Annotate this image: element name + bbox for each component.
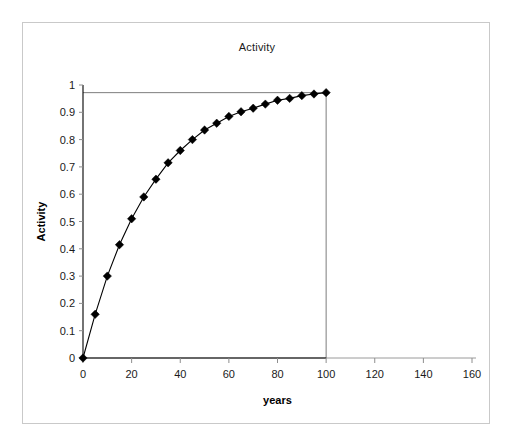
data-point-marker — [225, 112, 233, 120]
y-axis-tick-label: 0.5 — [60, 216, 75, 228]
activity-line-chart: 00.10.20.30.40.50.60.70.80.9102040608010… — [23, 23, 491, 425]
data-point-marker — [285, 94, 293, 102]
x-axis-tick-label: 80 — [271, 368, 283, 380]
y-axis-tick-label: 0.2 — [60, 297, 75, 309]
y-axis-tick-label: 0 — [69, 352, 75, 364]
data-point-marker — [249, 104, 257, 112]
x-axis-tick-label: 0 — [80, 368, 86, 380]
y-axis-tick-label: 0.7 — [60, 161, 75, 173]
y-axis-tick-label: 1 — [69, 79, 75, 91]
x-axis-tick-label: 60 — [223, 368, 235, 380]
y-axis-tick-label: 0.8 — [60, 134, 75, 146]
chart-frame: Activity 00.10.20.30.40.50.60.70.80.9102… — [22, 22, 490, 424]
x-axis-tick-label: 100 — [317, 368, 335, 380]
data-point-marker — [273, 96, 281, 104]
chart-root: Activity 00.10.20.30.40.50.60.70.80.9102… — [0, 0, 516, 447]
x-axis-tick-label: 40 — [174, 368, 186, 380]
data-point-marker — [91, 310, 99, 318]
x-axis-tick-label: 20 — [126, 368, 138, 380]
x-axis-title: years — [263, 394, 292, 406]
y-axis-tick-label: 0.3 — [60, 270, 75, 282]
x-axis-tick-label: 120 — [366, 368, 384, 380]
y-axis-title: Activity — [35, 201, 47, 242]
data-point-marker — [79, 354, 87, 362]
y-axis-tick-label: 0.9 — [60, 106, 75, 118]
data-point-marker — [127, 215, 135, 223]
data-point-marker — [322, 88, 330, 96]
data-point-marker — [310, 90, 318, 98]
data-point-marker — [140, 193, 148, 201]
data-point-marker — [152, 175, 160, 183]
x-axis-tick-label: 160 — [463, 368, 481, 380]
data-point-marker — [103, 272, 111, 280]
x-axis-tick-label: 140 — [414, 368, 432, 380]
data-point-marker — [115, 241, 123, 249]
data-point-marker — [261, 100, 269, 108]
y-axis-tick-label: 0.1 — [60, 325, 75, 337]
data-point-marker — [213, 119, 221, 127]
y-axis-tick-label: 0.6 — [60, 188, 75, 200]
data-point-marker — [237, 108, 245, 116]
y-axis-tick-label: 0.4 — [60, 243, 75, 255]
